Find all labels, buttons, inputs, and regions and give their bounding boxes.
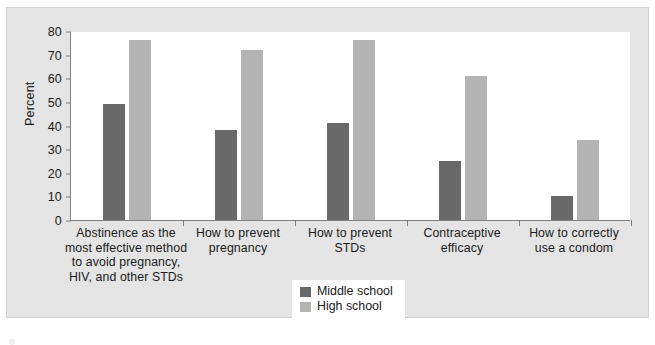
y-axis-tick-label: 60 <box>22 72 71 86</box>
legend-swatch-middle-school <box>300 287 311 297</box>
chart-legend: Middle school High school <box>292 280 405 319</box>
bar-middle-school <box>551 196 573 220</box>
category-label-line: Abstinence as the <box>62 226 190 241</box>
scan-speck <box>9 339 15 345</box>
category-label-line: HIV, and other STDs <box>62 270 190 285</box>
bar-high-school <box>129 40 151 220</box>
bar-middle-school <box>103 104 125 220</box>
legend-item-high-school: High school <box>300 299 393 314</box>
bar-group <box>519 32 631 220</box>
bar-high-school <box>577 140 599 220</box>
y-axis-tick-label: 80 <box>22 25 71 39</box>
chart-figure: Percent 01020304050607080 Middle school … <box>6 7 649 318</box>
y-axis-tick-label: 10 <box>22 190 71 204</box>
y-axis-tick-label: 70 <box>22 49 71 63</box>
bar-group <box>71 32 183 220</box>
bar-middle-school <box>327 123 349 220</box>
y-axis-tick-label: 40 <box>22 120 71 134</box>
legend-label-middle-school: Middle school <box>317 284 393 299</box>
bar-middle-school <box>215 130 237 220</box>
x-axis-category-label: How to correctlyuse a condom <box>510 226 638 255</box>
x-axis-category-label: How to preventpregnancy <box>174 226 302 255</box>
bar-high-school <box>241 50 263 220</box>
category-label-line: How to correctly <box>510 226 638 241</box>
plot-inner: 01020304050607080 <box>71 32 630 220</box>
y-axis-tick-label: 30 <box>22 143 71 157</box>
category-label-line: How to prevent <box>174 226 302 241</box>
y-axis-tick-mark <box>66 221 71 222</box>
plot-area: 01020304050607080 <box>70 32 630 221</box>
y-axis-tick-label: 50 <box>22 96 71 110</box>
x-axis-category-label: Abstinence as themost effective methodto… <box>62 226 190 284</box>
y-axis-tick-label: 20 <box>22 167 71 181</box>
x-axis-category-label: How to preventSTDs <box>286 226 414 255</box>
category-label-line: efficacy <box>398 241 526 256</box>
legend-item-middle-school: Middle school <box>300 284 393 299</box>
category-label-line: How to prevent <box>286 226 414 241</box>
bar-high-school <box>465 76 487 220</box>
category-label-line: to avoid pregnancy, <box>62 255 190 270</box>
bar-group <box>295 32 407 220</box>
bar-high-school <box>353 40 375 220</box>
category-label-line: most effective method <box>62 241 190 256</box>
legend-swatch-high-school <box>300 302 311 312</box>
category-label-line: STDs <box>286 241 414 256</box>
category-label-line: pregnancy <box>174 241 302 256</box>
x-axis-category-label: Contraceptiveefficacy <box>398 226 526 255</box>
bar-group <box>183 32 295 220</box>
bar-group <box>407 32 519 220</box>
category-label-line: Contraceptive <box>398 226 526 241</box>
legend-label-high-school: High school <box>317 299 382 314</box>
category-label-line: use a condom <box>510 241 638 256</box>
bar-middle-school <box>439 161 461 220</box>
